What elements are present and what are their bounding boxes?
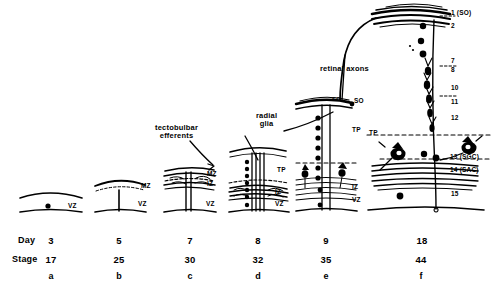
tectum-layer-13-sgc: 13 (SGC) xyxy=(450,154,479,161)
day-value-f: 18 xyxy=(412,236,432,246)
zone-label-d-vz: VZ xyxy=(275,201,284,208)
stage-value-b: 25 xyxy=(110,255,128,265)
tectum-layer-7: 7 xyxy=(451,58,455,65)
stage-value-e: 35 xyxy=(317,255,335,265)
so-mark-label: SO xyxy=(332,96,341,102)
panel-letter-f: f xyxy=(414,272,428,281)
stage-value-c: 30 xyxy=(181,255,199,265)
tectum-layer-14-sac: 14 (SAC) xyxy=(450,167,479,174)
zone-label-f-tp: TP xyxy=(369,130,378,137)
zone-label-c-iz: IZ xyxy=(207,181,213,188)
annotation-radial-glia: radial glia xyxy=(256,112,277,128)
annotation-retinal-axons: retinal axons xyxy=(320,65,369,73)
zone-label-e-vz: VZ xyxy=(352,197,361,204)
annotation-radial-glia-line2: glia xyxy=(260,119,274,128)
zone-label-c-vz: VZ xyxy=(206,201,215,208)
zone-label-c-mz: MZ xyxy=(207,171,217,178)
figure-canvas: tectobulbar efferents radial glia retina… xyxy=(0,0,500,291)
day-value-d: 8 xyxy=(251,236,265,246)
panel-f-drawing xyxy=(340,4,492,212)
day-value-a: 3 xyxy=(44,236,58,246)
tectum-layer-8: 8 xyxy=(451,67,455,74)
zone-label-a-vz: VZ xyxy=(68,203,77,210)
panel-letter-c: c xyxy=(183,272,197,281)
zone-label-d-iz: IZ xyxy=(275,189,281,196)
tectum-layer-10: 10 xyxy=(451,85,459,92)
panel-letter-e: e xyxy=(319,272,333,281)
tectum-development-drawing xyxy=(0,0,500,291)
zone-label-e-so: SO xyxy=(354,98,364,105)
tectum-layer-12: 12 xyxy=(451,115,459,122)
panel-letter-d: d xyxy=(251,272,265,281)
zone-label-b-vz: VZ xyxy=(138,201,147,208)
tectum-layer-15: 15 xyxy=(451,191,459,198)
stage-value-f: 44 xyxy=(410,255,432,265)
day-value-b: 5 xyxy=(112,236,126,246)
panel-letter-a: a xyxy=(44,272,58,281)
tectum-layer-1-so: 1 (SO) xyxy=(451,10,471,17)
stage-value-a: 17 xyxy=(42,255,60,265)
panel-e-drawing xyxy=(296,97,357,211)
axis-label-day: Day xyxy=(18,236,35,245)
panel-letter-b: b xyxy=(112,272,126,281)
tectum-layer-2: 2 xyxy=(451,23,455,30)
day-value-c: 7 xyxy=(183,236,197,246)
stage-value-d: 32 xyxy=(249,255,267,265)
annotation-retinal-axons-line1: retinal axons xyxy=(320,64,369,73)
zone-label-b-mz: MZ xyxy=(141,183,151,190)
tectum-layer-11: 11 xyxy=(451,99,458,106)
annotation-tectobulbar-line2: efferents xyxy=(160,131,193,140)
zone-label-e-tp: TP xyxy=(352,127,361,134)
axis-label-stage: Stage xyxy=(12,255,38,264)
zone-label-d-tp: TP xyxy=(277,167,286,174)
zone-label-e-iz: IZ xyxy=(352,184,358,191)
day-value-e: 9 xyxy=(319,236,333,246)
annotation-tectobulbar: tectobulbar efferents xyxy=(155,124,198,140)
